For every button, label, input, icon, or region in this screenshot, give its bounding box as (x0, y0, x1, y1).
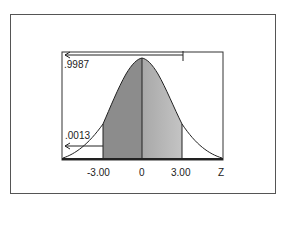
label-lower-area: .0013 (65, 131, 90, 141)
tick-label-neg3: -3.00 (87, 168, 110, 178)
label-upper-area: .9987 (64, 60, 89, 70)
tick-label-zero: 0 (139, 168, 145, 178)
tick-label-pos3: 3.00 (171, 168, 190, 178)
shaded-region-right (142, 58, 182, 159)
shaded-region-left (103, 58, 142, 159)
axis-label-z: Z (218, 168, 224, 178)
